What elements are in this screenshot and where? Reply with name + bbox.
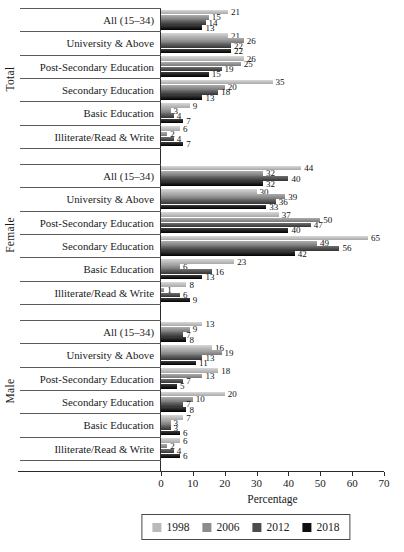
bar-2018 xyxy=(161,228,288,233)
category-row: Post-Secondary Education37504740 xyxy=(20,211,404,234)
bar-2006 xyxy=(161,171,263,176)
bar-cluster: 6246 xyxy=(161,437,404,461)
group-rows: All (15–34)13978University & Above161913… xyxy=(20,320,404,461)
x-axis-line xyxy=(18,471,384,472)
x-tick xyxy=(161,472,162,476)
bar-cluster: 44324032 xyxy=(161,164,404,187)
bar-2012 xyxy=(161,269,212,274)
bar-value-label: 13 xyxy=(205,372,214,380)
bar-value-label: 23 xyxy=(237,258,246,266)
bar-2018 xyxy=(161,454,180,459)
x-tick-label: 60 xyxy=(339,477,365,489)
bar-1998 xyxy=(161,166,301,171)
bar-2018 xyxy=(161,49,231,54)
bar-1998 xyxy=(161,189,257,194)
bar-2012 xyxy=(161,137,174,142)
bar-value-label: 50 xyxy=(323,216,332,224)
bar-value-label: 6 xyxy=(183,125,188,133)
bar-value-label: 25 xyxy=(244,60,253,68)
bar-cluster: 181375 xyxy=(161,367,404,390)
bar-2012 xyxy=(161,402,183,407)
legend-item-1998: 1998 xyxy=(152,521,189,533)
bar-2018 xyxy=(161,251,295,256)
legend-item-2012: 2012 xyxy=(252,521,289,533)
x-tick-label: 50 xyxy=(307,477,333,489)
group-label: Female xyxy=(4,217,16,253)
bar-value-label: 7 xyxy=(186,140,191,148)
bar-2018 xyxy=(161,205,266,210)
category-row: Secondary Education35201813 xyxy=(20,78,404,101)
bar-value-label: 20 xyxy=(228,390,237,398)
bar-2012 xyxy=(161,20,206,25)
bar-value-label: 10 xyxy=(196,395,205,403)
bar-value-label: 21 xyxy=(231,8,240,16)
bar-1998 xyxy=(161,212,279,217)
group-label-column: Total xyxy=(0,8,20,149)
bar-2012 xyxy=(161,199,276,204)
category-label: University & Above xyxy=(20,343,161,366)
category-label: University & Above xyxy=(20,187,161,210)
bar-2012 xyxy=(161,223,311,228)
x-tick-label: 70 xyxy=(371,477,397,489)
group-label: Total xyxy=(4,66,16,91)
legend-item-2018: 2018 xyxy=(302,521,339,533)
legend-swatch xyxy=(152,523,161,532)
bar-1998 xyxy=(161,236,368,241)
legend: 1998200620122018 xyxy=(141,514,350,540)
category-label: All (15–34) xyxy=(20,320,161,343)
bar-1998 xyxy=(161,345,212,350)
bar-value-label: 9 xyxy=(193,325,198,333)
bar-value-label: 26 xyxy=(247,37,256,45)
category-label: Post-Secondary Education xyxy=(20,367,161,390)
bar-value-label: 35 xyxy=(276,78,285,86)
category-row: Basic Education2361613 xyxy=(20,257,404,280)
bar-2018 xyxy=(161,142,183,147)
category-label: Post-Secondary Education xyxy=(20,55,161,78)
bar-value-label: 13 xyxy=(205,320,214,328)
x-tick-label: 40 xyxy=(275,477,301,489)
group-male: MaleAll (15–34)13978University & Above16… xyxy=(0,320,404,461)
bar-2012 xyxy=(161,246,339,251)
legend-item-2006: 2006 xyxy=(202,521,239,533)
bar-1998 xyxy=(161,282,186,287)
bar-2006 xyxy=(161,108,171,113)
plot-groups: TotalAll (15–34)21151413University & Abo… xyxy=(0,8,404,476)
category-row: University & Above16191311 xyxy=(20,343,404,366)
x-tick xyxy=(288,472,289,476)
bar-2018 xyxy=(161,119,183,124)
bar-2018 xyxy=(161,384,177,389)
x-tick-label: 30 xyxy=(244,477,270,489)
bar-2018 xyxy=(161,181,263,186)
bar-2006 xyxy=(161,15,209,20)
category-row: University & Above30393633 xyxy=(20,187,404,210)
group-rows: All (15–34)44324032University & Above303… xyxy=(20,164,404,305)
category-label: Secondary Education xyxy=(20,234,161,257)
category-label: All (15–34) xyxy=(20,8,161,31)
category-row: Basic Education9347 xyxy=(20,101,404,124)
group-female: FemaleAll (15–34)44324032University & Ab… xyxy=(0,164,404,305)
bar-cluster: 13978 xyxy=(161,320,404,343)
bar-2012 xyxy=(161,425,171,430)
category-label: Secondary Education xyxy=(20,78,161,101)
category-row: Post-Secondary Education181375 xyxy=(20,367,404,390)
bar-value-label: 19 xyxy=(225,349,234,357)
legend-swatch xyxy=(302,523,311,532)
bar-1998 xyxy=(161,415,183,420)
bar-2006 xyxy=(161,288,164,293)
category-row: All (15–34)13978 xyxy=(20,320,404,343)
bar-1998 xyxy=(161,80,273,85)
x-tick xyxy=(320,472,321,476)
bar-2018 xyxy=(161,298,190,303)
bar-value-label: 47 xyxy=(314,221,323,229)
bar-value-label: 9 xyxy=(193,296,198,304)
bar-1998 xyxy=(161,33,228,38)
category-row: All (15–34)44324032 xyxy=(20,164,404,187)
bar-2012 xyxy=(161,332,183,337)
category-label: Illiterate/Read & Write xyxy=(20,437,161,461)
category-label: Illiterate/Read & Write xyxy=(20,281,161,305)
bar-cluster: 2361613 xyxy=(161,257,404,280)
bar-2018 xyxy=(161,361,196,366)
bar-2006 xyxy=(161,85,225,90)
bar-value-label: 44 xyxy=(304,164,313,172)
bar-value-label: 39 xyxy=(288,193,297,201)
